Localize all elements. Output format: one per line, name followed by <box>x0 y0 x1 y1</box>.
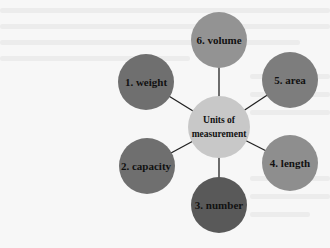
node-label: 2. capacity <box>121 160 172 172</box>
node-label: 5. area <box>274 74 306 86</box>
node-volume: 6. volume <box>191 12 247 68</box>
center-label-line1: Units of <box>203 115 236 125</box>
node-length: 4. length <box>262 135 318 191</box>
node-number: 3. number <box>191 177 247 233</box>
node-label: 4. length <box>270 157 310 169</box>
center-circle <box>188 96 250 158</box>
center-node: Units of measurement <box>188 96 250 158</box>
node-weight: 1. weight <box>118 54 174 110</box>
node-label: 3. number <box>195 199 243 211</box>
node-label: 1. weight <box>125 76 168 88</box>
node-area: 5. area <box>262 52 318 108</box>
units-of-measurement-diagram: 6. volume 1. weight 5. area 2. capacity … <box>0 0 330 248</box>
node-label: 6. volume <box>196 34 241 46</box>
center-label-line2: measurement <box>192 129 248 139</box>
node-capacity: 2. capacity <box>119 138 175 194</box>
